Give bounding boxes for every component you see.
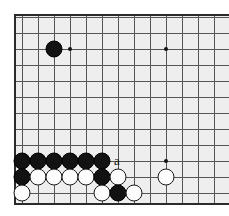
white-stone[interactable] <box>94 185 111 202</box>
grid-line-horizontal <box>14 33 229 34</box>
black-stone[interactable] <box>62 153 79 170</box>
point-label-a: a <box>114 154 120 167</box>
star-point-lower-right <box>164 159 168 163</box>
black-stone[interactable] <box>30 153 47 170</box>
grid-line-vertical <box>198 14 199 203</box>
black-stone[interactable] <box>14 169 31 186</box>
white-stone[interactable] <box>158 169 175 186</box>
black-stone[interactable] <box>14 153 31 170</box>
grid-line-horizontal <box>14 65 229 66</box>
white-stone[interactable] <box>126 185 143 202</box>
grid-line-vertical <box>182 14 183 203</box>
black-stone[interactable] <box>110 185 127 202</box>
white-stone[interactable] <box>110 169 127 186</box>
black-stone[interactable] <box>78 153 95 170</box>
grid-line-horizontal <box>14 97 229 98</box>
grid-line-vertical <box>214 14 215 203</box>
white-stone[interactable] <box>46 169 63 186</box>
grid-line-horizontal <box>14 81 229 82</box>
white-stone[interactable] <box>78 169 95 186</box>
board-edge-top <box>14 14 229 16</box>
board-edge-bottom <box>14 203 229 205</box>
white-stone[interactable] <box>14 185 31 202</box>
grid-line-vertical <box>150 14 151 203</box>
black-stone[interactable] <box>94 169 111 186</box>
grid-line-vertical <box>134 14 135 203</box>
grid-line-horizontal <box>14 129 229 130</box>
star-point-upper-right <box>164 47 168 51</box>
black-stone[interactable] <box>46 41 63 58</box>
white-stone[interactable] <box>30 169 47 186</box>
star-point-upper-left <box>68 47 72 51</box>
grid-line-horizontal <box>14 145 229 146</box>
grid-line-horizontal <box>14 17 229 18</box>
black-stone[interactable] <box>46 153 63 170</box>
white-stone[interactable] <box>62 169 79 186</box>
go-board-diagram: a <box>0 0 229 216</box>
grid-line-horizontal <box>14 113 229 114</box>
black-stone[interactable] <box>94 153 111 170</box>
